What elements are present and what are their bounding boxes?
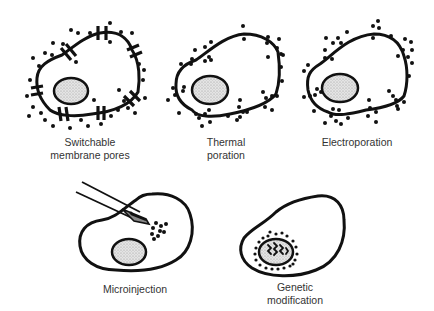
panel-microinjection — [76, 182, 192, 271]
label-electroporation: Electroporation — [317, 136, 397, 149]
nucleus — [112, 239, 146, 265]
molecule-dots — [150, 221, 168, 241]
molecule-dots — [302, 19, 414, 126]
panel-switchable-membrane-pores — [25, 21, 147, 130]
cell-membrane — [176, 34, 279, 116]
panel-electroporation — [302, 19, 414, 126]
cell-membrane — [308, 34, 408, 115]
label-genetic-modification: Genetic modification — [260, 281, 330, 307]
label-switchable-membrane-pores: Switchable membrane pores — [45, 136, 135, 162]
label-microinjection: Microinjection — [100, 283, 170, 296]
label-thermal-poration: Thermal poration — [196, 136, 256, 162]
nucleus — [192, 76, 228, 104]
panel-genetic-modification — [241, 196, 345, 276]
cell-membrane — [37, 32, 139, 115]
nucleus — [322, 74, 358, 102]
nucleus — [54, 78, 88, 104]
panel-thermal-poration — [166, 24, 285, 128]
